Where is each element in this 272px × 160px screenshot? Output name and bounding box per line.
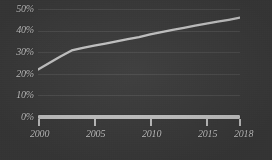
y-tick-label-40: 40%: [0, 25, 34, 35]
x-tick-2000: [38, 119, 40, 126]
line-series: [38, 9, 240, 117]
y-tick-label-0: 0%: [0, 112, 34, 122]
y-tick-label-20: 20%: [0, 69, 34, 79]
x-tick-2015: [206, 119, 208, 126]
y-tick-label-10: 10%: [0, 90, 34, 100]
x-tick-2010: [150, 119, 152, 126]
y-tick-label-50: 50%: [0, 4, 34, 14]
chart-screenshot: 50% 40% 30% 20% 10% 0% 2000 2005 2010 20…: [0, 0, 272, 160]
x-tick-label-2000: 2000: [30, 128, 49, 139]
x-tick-2018: [239, 119, 241, 126]
x-tick-2005: [94, 119, 96, 126]
x-tick-label-2015: 2015: [198, 128, 217, 139]
x-tick-label-2010: 2010: [142, 128, 161, 139]
x-axis-line: [38, 115, 240, 119]
plot-area: [38, 9, 240, 117]
x-tick-label-2005: 2005: [86, 128, 105, 139]
x-tick-label-2018: 2018: [234, 128, 253, 139]
y-tick-label-30: 30%: [0, 47, 34, 57]
